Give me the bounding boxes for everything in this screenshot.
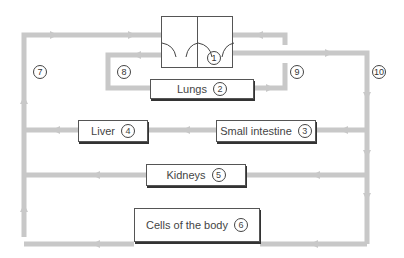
lungs-box: Lungs 2	[150, 79, 254, 99]
arrowhead	[312, 171, 320, 179]
small-intestine-number: 3	[298, 124, 312, 138]
small-intestine-box: Small intestine 3	[216, 120, 316, 142]
arrowhead	[20, 204, 28, 212]
vessel-7-number: 7	[33, 65, 47, 79]
vessel-8-number: 8	[117, 65, 131, 79]
arrowhead	[340, 126, 348, 134]
vessel-9	[254, 63, 285, 88]
arrowhead	[266, 84, 274, 92]
cells-number: 6	[234, 218, 248, 232]
kidneys-label: Kidneys	[166, 169, 205, 181]
cells-of-the-body-box: Cells of the body 6	[134, 208, 260, 242]
arrowhead	[92, 171, 100, 179]
arrowhead	[255, 31, 263, 39]
lungs-label: Lungs	[177, 83, 207, 95]
liver-label: Liver	[91, 125, 115, 137]
small-intestine-label: Small intestine	[220, 125, 292, 137]
arrowhead	[363, 92, 371, 100]
heart-number: 1	[207, 51, 221, 65]
heart-valves-icon	[162, 17, 234, 69]
liver-box: Liver 4	[78, 120, 148, 142]
lungs-number: 2	[213, 82, 227, 96]
arrowhead	[363, 193, 371, 201]
heart-box: 1	[161, 16, 233, 68]
arrowhead	[128, 31, 136, 39]
vessel-9-number: 9	[290, 65, 304, 79]
arrowhead	[133, 51, 141, 59]
arrowhead	[50, 31, 58, 39]
arrowhead	[20, 96, 28, 104]
arrowhead	[52, 126, 60, 134]
arrowhead	[325, 49, 333, 57]
liver-number: 4	[121, 124, 135, 138]
arrowhead	[92, 240, 100, 248]
cells-label: Cells of the body	[146, 219, 228, 231]
arrowhead	[363, 150, 371, 158]
kidneys-box: Kidneys 5	[146, 164, 246, 186]
arrowhead	[182, 126, 190, 134]
kidneys-number: 5	[212, 168, 226, 182]
arrowhead	[310, 240, 318, 248]
vessel-10-number: 10	[372, 65, 386, 79]
